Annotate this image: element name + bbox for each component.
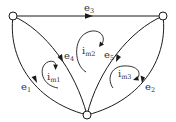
node-bottom [83, 111, 91, 119]
arrow-im1-icon [53, 65, 58, 71]
label-e2: e2 [145, 81, 155, 94]
label-im2: im2 [82, 45, 96, 58]
label-im1: im1 [47, 71, 61, 84]
label-e3: e3 [84, 2, 94, 15]
label-im3: im3 [118, 68, 132, 81]
label-e1: e1 [21, 81, 31, 94]
circuit-graph: e3 e1 e4 e5 e2 im1 im2 im3 [0, 0, 176, 122]
node-top-right [159, 12, 167, 20]
label-e5: e5 [104, 49, 114, 62]
edge-e4 [13, 16, 87, 115]
node-top-left [9, 12, 17, 20]
label-e4: e4 [64, 50, 74, 63]
arrow-e5-icon [116, 54, 121, 62]
edge-e1 [12, 16, 87, 115]
